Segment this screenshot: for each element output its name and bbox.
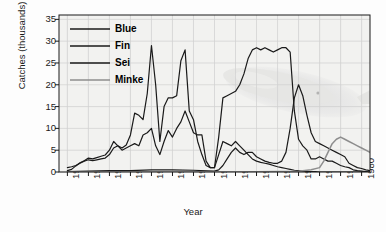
legend-label-fin: Fin [115, 41, 130, 51]
chart-plot-area [0, 0, 386, 232]
chart-figure: Catches (thousands) 05101520253035 19101… [0, 0, 386, 232]
legend-label-blue: Blue [115, 24, 137, 34]
legend-label-minke: Minke [115, 75, 143, 85]
legend-label-sei: Sei [115, 58, 130, 68]
